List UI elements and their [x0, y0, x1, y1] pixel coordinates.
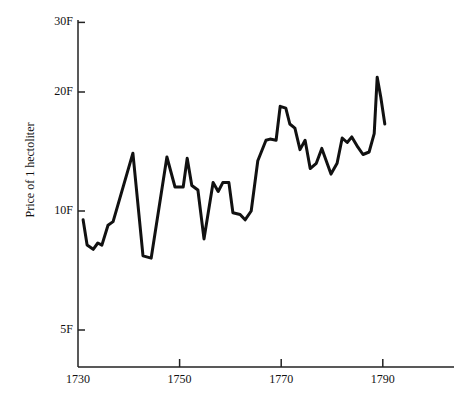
- y-tick-label: 30F: [33, 14, 73, 29]
- y-tick-label: 20F: [33, 84, 73, 99]
- price-line: [83, 77, 385, 258]
- plot-svg: [0, 0, 466, 400]
- y-tick-label: 5F: [33, 322, 73, 337]
- x-tick-label: 1750: [160, 372, 200, 387]
- x-tick-label: 1770: [261, 372, 301, 387]
- x-tick-label: 1730: [58, 372, 98, 387]
- axes: [78, 20, 454, 367]
- y-tick-label: 10F: [33, 203, 73, 218]
- x-tick-label: 1790: [363, 372, 403, 387]
- chart-area: Price of 1 hectoliter 5F10F20F30F 173017…: [0, 0, 466, 400]
